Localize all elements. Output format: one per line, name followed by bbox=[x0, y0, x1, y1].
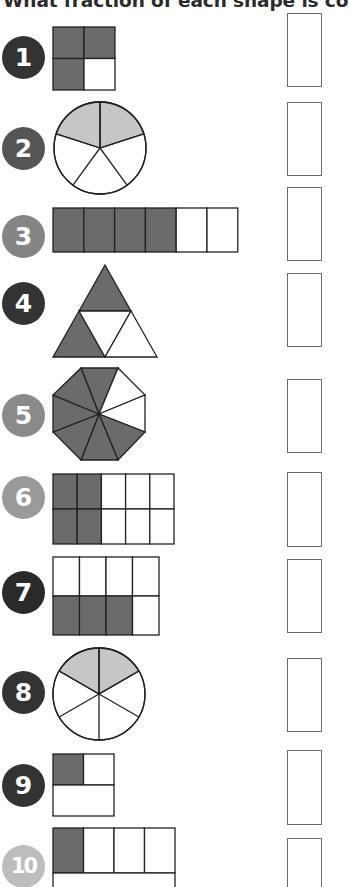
answer-box-10[interactable] bbox=[287, 838, 322, 887]
answer-box-1[interactable] bbox=[287, 13, 322, 87]
shape-10-rect-split bbox=[53, 828, 175, 887]
answer-box-6[interactable] bbox=[287, 472, 322, 547]
answer-box-8[interactable] bbox=[287, 658, 322, 732]
shape-7-grid-eighths bbox=[53, 557, 159, 635]
shape-1-square-grid bbox=[53, 27, 115, 90]
shape-9-rect-split bbox=[53, 754, 114, 816]
shape-5-octagon-eighths bbox=[53, 368, 145, 460]
answer-box-9[interactable] bbox=[287, 750, 322, 825]
shape-8-circle-sixths bbox=[53, 648, 145, 740]
answer-box-2[interactable] bbox=[287, 102, 322, 176]
answer-box-3[interactable] bbox=[287, 187, 322, 261]
shape-2-circle-fifths bbox=[54, 102, 146, 194]
answer-box-4[interactable] bbox=[287, 273, 322, 347]
shape-6-grid-tenths bbox=[53, 474, 174, 544]
shape-4-triangle-quarters bbox=[53, 265, 157, 357]
answer-box-7[interactable] bbox=[287, 559, 322, 633]
answer-box-5[interactable] bbox=[287, 379, 322, 453]
shape-3-bar-sixths bbox=[53, 208, 238, 252]
